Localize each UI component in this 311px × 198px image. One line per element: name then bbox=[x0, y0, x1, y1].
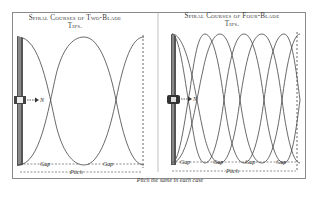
two-blade-panel bbox=[18, 35, 144, 168]
spiral-diagram: N Gap Gap Pitch N Gap Gap Gap Gap Pitch bbox=[0, 0, 311, 198]
four-blade-propeller-icon bbox=[167, 34, 180, 165]
two-blade-gap-label-2: Gap bbox=[103, 161, 113, 167]
four-blade-gap-label-3: Gap bbox=[245, 159, 255, 165]
two-blade-direction-arrow-icon bbox=[27, 98, 39, 103]
two-blade-direction-label: N bbox=[39, 97, 45, 103]
four-blade-pitch-label: Pitch bbox=[225, 168, 239, 174]
four-blade-gap-label-2: Gap bbox=[213, 159, 223, 165]
two-blade-propeller-icon bbox=[14, 36, 26, 166]
four-blade-panel bbox=[172, 32, 300, 170]
two-blade-gap-label-1: Gap bbox=[40, 161, 50, 167]
four-blade-gap-label-1: Gap bbox=[180, 159, 190, 165]
caption: Pitch the same in each case bbox=[100, 177, 240, 183]
four-blade-direction-arrow-icon bbox=[181, 97, 192, 102]
two-blade-pitch-label: Pitch bbox=[69, 169, 83, 175]
four-blade-gap-label-4: Gap bbox=[276, 159, 286, 165]
